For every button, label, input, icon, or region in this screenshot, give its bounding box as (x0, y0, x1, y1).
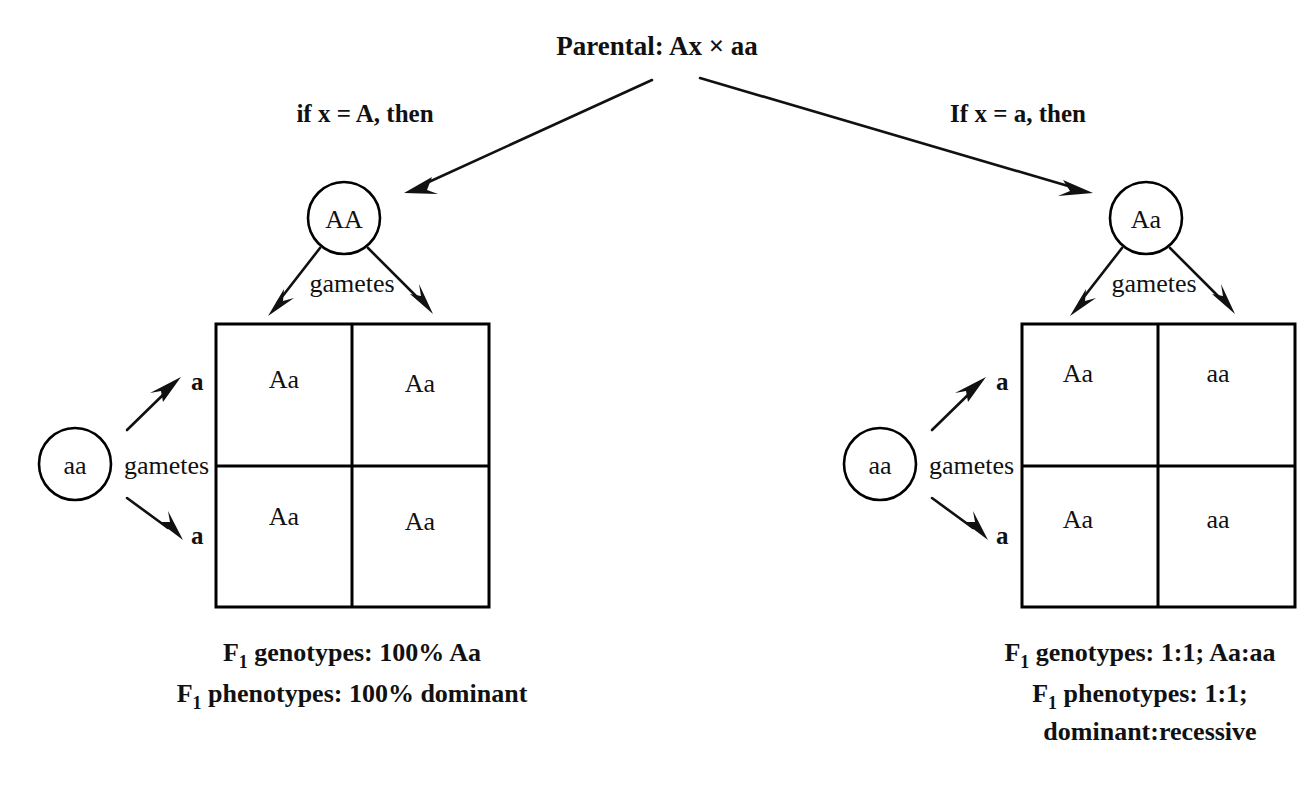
right-punnett-cell-r1c0: Aa (1063, 505, 1094, 534)
svg-text:F1 genotypes: 1:1; Aa:aa: F1 genotypes: 1:1; Aa:aa (1004, 638, 1275, 672)
left-caption-genotypes-subscript: 1 (239, 652, 248, 672)
branch-arrow-left (404, 80, 652, 194)
left-side-parent-node: aa (39, 428, 111, 500)
left-top-parent-node: AA (308, 182, 380, 254)
left-punnett-cell-r0c1: Aa (405, 369, 436, 398)
right-top-parent-node: Aa (1110, 182, 1182, 254)
right-side-gamete-arrow-1 (932, 377, 986, 430)
right-caption-phenotypes-rest: phenotypes: 1:1; (1057, 679, 1248, 708)
left-side-gametes-label: gametes (124, 451, 209, 480)
right-caption-genotypes-subscript: 1 (1020, 652, 1029, 672)
right-branch-condition-label: If x = a, then (950, 100, 1086, 127)
right-caption-phenotypes-prefix: F (1032, 679, 1048, 708)
left-caption-phenotypes-subscript: 1 (193, 693, 202, 713)
left-punnett-cell-r1c1: Aa (405, 507, 436, 536)
svg-text:F1 genotypes: 100% Aa: F1 genotypes: 100% Aa (223, 638, 481, 672)
right-top-gametes-label: gametes (1111, 269, 1196, 298)
right-caption-genotypes: F1 genotypes: 1:1; Aa:aa (1004, 638, 1275, 672)
left-side-gamete-arrow-1 (127, 377, 181, 430)
left-caption-genotypes-prefix: F (223, 638, 239, 667)
right-punnett-cell-r0c1: aa (1206, 359, 1230, 388)
punnett-square-figure: Parental: Ax × aa if x = A, then If x = … (0, 0, 1314, 787)
left-punnett-cell-r0c0: Aa (269, 365, 300, 394)
left-branch-condition-label: if x = A, then (296, 100, 433, 127)
right-caption-phenotypes: F1 phenotypes: 1:1; (1032, 679, 1248, 713)
right-side-parent-node: aa (844, 428, 916, 500)
left-side-gamete-arrow-2 (127, 498, 183, 540)
left-caption-phenotypes: F1 phenotypes: 100% dominant (177, 679, 528, 713)
left-top-parent-genotype: AA (325, 205, 363, 234)
branch-arrow-right (700, 78, 1093, 196)
left-punnett-cell-r1c0: Aa (269, 502, 300, 531)
right-top-parent-genotype: Aa (1131, 205, 1162, 234)
right-caption-phenotypes-subscript: 1 (1048, 693, 1057, 713)
left-caption-phenotypes-prefix: F (177, 679, 193, 708)
parental-cross-title: Parental: Ax × aa (556, 31, 758, 61)
left-side-gamete-allele-2: a (191, 522, 204, 549)
left-punnett-grid (216, 324, 489, 607)
genetics-diagram-canvas: Parental: Ax × aa if x = A, then If x = … (0, 0, 1314, 787)
left-caption-genotypes: F1 genotypes: 100% Aa (223, 638, 481, 672)
svg-text:F1 phenotypes: 100% dominant: F1 phenotypes: 100% dominant (177, 679, 528, 713)
left-side-gamete-allele-1: a (191, 368, 204, 395)
left-caption-genotypes-rest: genotypes: 100% Aa (248, 638, 481, 667)
right-side-parent-genotype: aa (868, 451, 892, 480)
right-caption-genotypes-prefix: F (1004, 638, 1020, 667)
right-punnett-cell-r0c0: Aa (1063, 359, 1094, 388)
right-side-gamete-arrow-2 (932, 498, 988, 540)
right-side-gamete-allele-1: a (996, 368, 1009, 395)
right-caption-genotypes-rest: genotypes: 1:1; Aa:aa (1029, 638, 1275, 667)
svg-text:F1 phenotypes: 1:1;: F1 phenotypes: 1:1; (1032, 679, 1248, 713)
left-top-gametes-label: gametes (309, 269, 394, 298)
right-punnett-cell-r1c1: aa (1206, 505, 1230, 534)
right-caption-phenotypes-continued: dominant:recessive (1043, 717, 1256, 746)
right-caption-phenotypes-detail: dominant:recessive (1043, 717, 1256, 746)
right-side-gamete-allele-2: a (996, 522, 1009, 549)
left-side-parent-genotype: aa (63, 451, 87, 480)
left-caption-phenotypes-rest: phenotypes: 100% dominant (202, 679, 528, 708)
right-side-gametes-label: gametes (929, 451, 1014, 480)
